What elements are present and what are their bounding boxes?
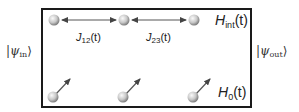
spin-arrow-icon xyxy=(126,79,140,94)
input-state-label: |ψin⟩ xyxy=(6,44,32,59)
spin-sphere-icon xyxy=(48,92,59,103)
local-hamiltonian-label: H0(t) xyxy=(218,84,246,102)
spin-sphere-icon xyxy=(49,15,60,26)
coupling-label-23: J23(t) xyxy=(146,31,171,45)
coupling-label-12: J12(t) xyxy=(76,31,101,45)
output-state-label: |ψout⟩ xyxy=(256,44,287,59)
spin-arrow-icon xyxy=(56,79,70,94)
spin-sphere-icon xyxy=(118,92,129,103)
interaction-hamiltonian-label: Hint(t) xyxy=(215,12,248,30)
bottom-spins xyxy=(48,79,211,103)
spin-sphere-icon xyxy=(119,15,130,26)
spin-sphere-icon xyxy=(188,92,199,103)
spin-sphere-icon xyxy=(189,15,200,26)
spin-arrow-icon xyxy=(196,79,210,94)
spin-chain-art xyxy=(0,0,299,112)
